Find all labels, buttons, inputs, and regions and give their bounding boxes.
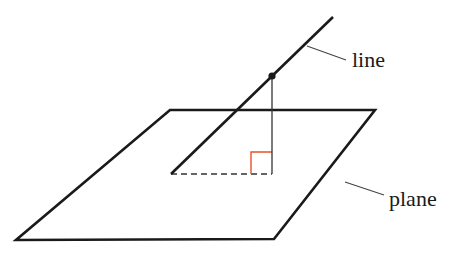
line-plane-diagram: line plane: [0, 0, 470, 259]
plane-shape: [16, 110, 375, 240]
point-on-line: [268, 72, 275, 79]
line-shape: [171, 17, 333, 174]
plane-label-leader: [345, 182, 384, 195]
line-label-leader: [307, 46, 346, 60]
diagram-canvas: [0, 0, 470, 259]
line-label: line: [352, 49, 385, 71]
plane-label: plane: [389, 188, 437, 210]
right-angle-marker: [251, 152, 272, 174]
